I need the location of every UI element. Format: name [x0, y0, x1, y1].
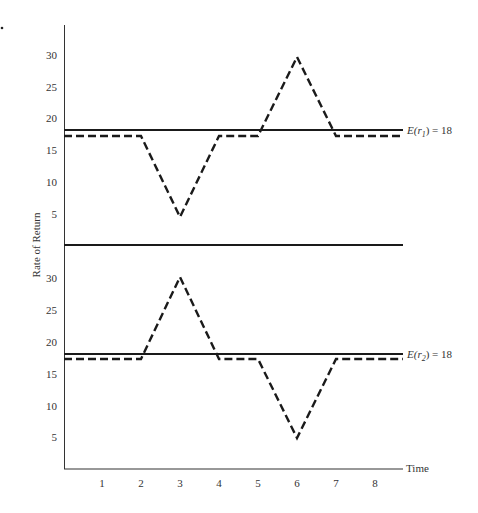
x-tick-label: 1: [99, 477, 105, 489]
y-tick-label: 20: [46, 112, 58, 124]
x-tick-label: 2: [138, 477, 144, 489]
x-axis-title: Time: [406, 462, 429, 474]
y-tick-label: 25: [46, 304, 58, 316]
y-tick-label: 20: [46, 336, 58, 348]
y-tick-label: 10: [46, 176, 58, 188]
x-tick-label: 5: [255, 477, 261, 489]
y-tick-label: 5: [52, 208, 58, 220]
y-tick-label: 25: [46, 81, 58, 93]
chart-canvas: 30 25 20 15 10 5 30 25 20 15 10 5 Rate o…: [0, 0, 478, 513]
expected-return-label-2: E(r2) = 18: [406, 348, 453, 363]
x-tick-label: 8: [372, 477, 378, 489]
y-tick-label: 15: [46, 144, 58, 156]
y-axis-title: Rate of Return: [30, 212, 42, 277]
x-tick-label: 7: [333, 477, 339, 489]
y-tick-label: 5: [52, 431, 58, 443]
y-tick-label: 30: [46, 49, 58, 61]
y-ticks-bottom: 30 25 20 15 10 5: [46, 272, 58, 443]
actual-return-line-1: [64, 57, 403, 217]
x-tick-label: 6: [294, 477, 300, 489]
y-ticks-top: 30 25 20 15 10 5: [46, 49, 58, 220]
x-ticks: 1 2 3 4 5 6 7 8: [99, 477, 378, 489]
x-tick-label: 3: [177, 477, 183, 489]
y-tick-label: 15: [46, 368, 58, 380]
y-tick-label: 30: [46, 272, 58, 284]
x-tick-label: 4: [216, 477, 222, 489]
actual-return-line-2: [64, 277, 403, 438]
corner-mark: [1, 27, 4, 30]
y-tick-label: 10: [46, 400, 58, 412]
expected-return-label-1: E(r1) = 18: [406, 124, 453, 139]
